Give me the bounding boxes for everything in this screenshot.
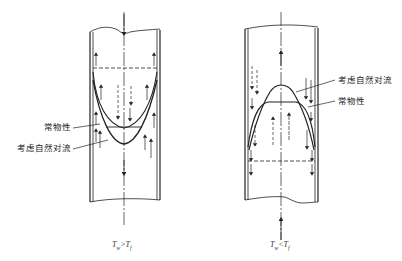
right-tube-bottom-break (245, 197, 318, 203)
right-tube-top-break (245, 25, 318, 29)
left-profile-natural-convection (93, 80, 157, 144)
right-caption-condition: Tw<Tf (270, 241, 290, 251)
right-label-natural-convection: 考虑自然对流 (338, 76, 392, 85)
left-caption-condition: Tw>Tf (112, 241, 132, 251)
left-upward-wall-arrows (96, 54, 154, 158)
leader-right-constant-properties (308, 101, 335, 107)
left-tube (90, 12, 160, 225)
left-downward-core-arrows (118, 85, 131, 120)
right-label-constant-properties: 常物性 (338, 97, 365, 106)
leader-right-natural-convection (296, 80, 335, 92)
left-tube-bottom-break (90, 199, 160, 202)
right-downward-wall-arrows (251, 66, 312, 174)
right-tube (245, 12, 318, 240)
right-profile-constant-properties (248, 102, 315, 147)
left-label-constant-properties: 常物性 (44, 123, 71, 132)
left-profile-constant-properties (93, 72, 157, 128)
left-label-natural-convection: 考虑自然对流 (17, 144, 71, 153)
leader-left-constant-properties (73, 124, 100, 128)
left-tube-top-break (90, 27, 160, 33)
leader-lines (73, 80, 335, 149)
right-profile-natural-convection (249, 85, 314, 150)
